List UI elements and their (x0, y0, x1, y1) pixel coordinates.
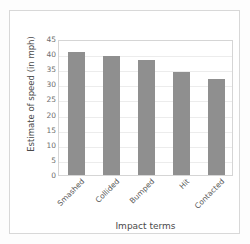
x-axis-title: Impact terms (58, 221, 233, 231)
y-axis-tick-label: 20 (30, 112, 56, 120)
y-axis-tick-label: 30 (30, 81, 56, 89)
y-axis-tick-label: 45 (30, 36, 56, 44)
bar (68, 52, 86, 175)
y-axis-tick-label: 40 (30, 51, 56, 59)
figure-card: Estimate of speed (in mph) 0510152025303… (0, 0, 250, 244)
y-axis-tick-label: 5 (30, 157, 56, 165)
y-axis-tick-label: 35 (30, 66, 56, 74)
y-axis-tick-labels: 051015202530354045 (26, 40, 56, 176)
bar (173, 72, 191, 175)
bar (138, 60, 156, 175)
y-axis-tick-label: 15 (30, 127, 56, 135)
y-axis-tick-label: 25 (30, 96, 56, 104)
bar (103, 56, 121, 175)
figure-frame: Estimate of speed (in mph) 0510152025303… (9, 10, 240, 234)
y-axis-tick-label: 0 (30, 172, 56, 180)
x-axis-tick-labels: SmashedCollidedBumpedHitContacted (58, 177, 233, 221)
bar (208, 79, 226, 175)
bar-series (59, 41, 232, 175)
plot-area (58, 40, 233, 176)
y-axis-tick-label: 10 (30, 142, 56, 150)
